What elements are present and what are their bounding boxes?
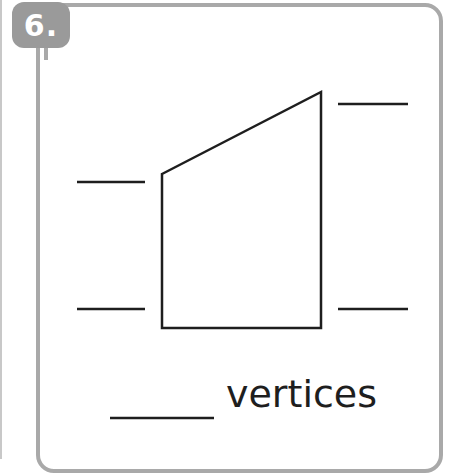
vertices-caption: vertices	[226, 372, 377, 416]
quadrilateral-shape	[162, 92, 321, 328]
